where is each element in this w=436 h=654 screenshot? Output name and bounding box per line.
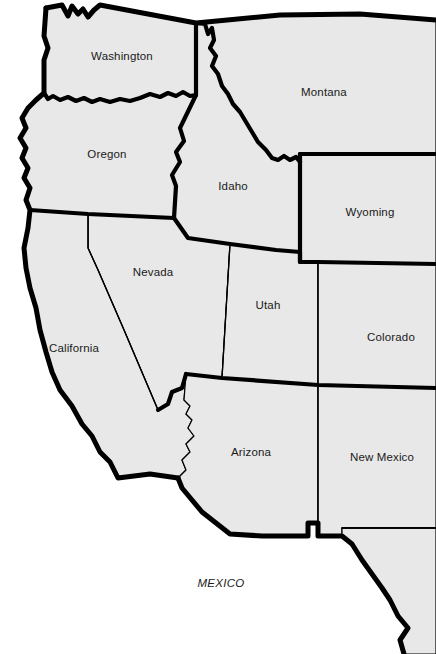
label-nevada: Nevada bbox=[133, 266, 174, 278]
label-washington: Washington bbox=[91, 50, 153, 62]
label-colorado: Colorado bbox=[367, 331, 415, 343]
label-california: California bbox=[49, 342, 99, 354]
label-montana: Montana bbox=[301, 86, 347, 98]
label-mexico: MEXICO bbox=[197, 577, 244, 589]
label-idaho: Idaho bbox=[218, 180, 248, 192]
western-us-map-graphic bbox=[0, 0, 436, 654]
state-shape-utah[interactable] bbox=[222, 244, 318, 385]
state-shape-colorado[interactable] bbox=[318, 262, 436, 388]
label-utah: Utah bbox=[256, 299, 281, 311]
map-canvas: Washington Montana Oregon Idaho Wyoming … bbox=[0, 0, 436, 654]
label-oregon: Oregon bbox=[87, 148, 126, 160]
label-wyoming: Wyoming bbox=[346, 206, 395, 218]
label-arizona: Arizona bbox=[231, 446, 271, 458]
label-new-mexico: New Mexico bbox=[350, 451, 414, 463]
